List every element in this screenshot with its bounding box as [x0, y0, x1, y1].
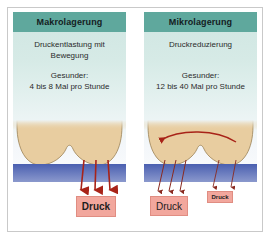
panel-title-mikrolagerung: Mikrolagerung [169, 17, 232, 27]
panel-frequency-mikrolagerung: 12 bis 40 Mal pro Stunde [148, 81, 253, 92]
illustration-mikrolagerung [144, 120, 257, 182]
pressure-label-makrolagerung: Druck [76, 196, 116, 217]
pressure-label-text: Druck [82, 201, 110, 212]
illustration-makrolagerung [13, 120, 126, 182]
pressure-positioning-diagram: Makrolagerung Druckentlastung mit Bewegu… [0, 0, 270, 239]
spacer [148, 50, 253, 59]
spacer [17, 61, 122, 70]
panel-body-makrolagerung: Druckentlastung mit Bewegung Gesunder: 4… [13, 32, 126, 92]
panel-subject-mikrolagerung: Gesunder: [148, 70, 253, 81]
pressure-label-mikrolagerung-secondary: Druck [207, 191, 233, 203]
pressure-label-text: Druck [156, 201, 182, 212]
panel-body-mikrolagerung: Druckreduzierung Gesunder: 12 bis 40 Mal… [144, 32, 257, 92]
panel-description-makrolagerung: Druckentlastung mit Bewegung [17, 39, 122, 61]
panel-title-makrolagerung: Makrolagerung [37, 17, 103, 27]
mattress-band [13, 164, 126, 182]
panel-header-makrolagerung: Makrolagerung [13, 12, 126, 32]
shape-top-fade [13, 120, 126, 130]
panel-header-mikrolagerung: Mikrolagerung [144, 12, 257, 32]
panel-description-mikrolagerung: Druckreduzierung [148, 39, 253, 50]
panel-mikrolagerung: Mikrolagerung Druckreduzierung Gesunder:… [144, 12, 257, 182]
mattress-band [144, 164, 257, 182]
pressure-label-text: Druck [211, 194, 228, 200]
panel-makrolagerung: Makrolagerung Druckentlastung mit Bewegu… [13, 12, 126, 182]
panel-frequency-makrolagerung: 4 bis 8 Mal pro Stunde [17, 81, 122, 92]
shape-top-fade [144, 120, 257, 130]
pressure-label-mikrolagerung-primary: Druck [150, 196, 188, 216]
panel-subject-makrolagerung: Gesunder: [17, 70, 122, 81]
